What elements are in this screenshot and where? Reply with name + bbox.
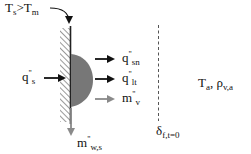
wall-condition-label: Ts>Tm xyxy=(5,1,39,17)
wall-hatch xyxy=(60,28,70,122)
heat-flux-lt-label: q"lt xyxy=(122,71,137,87)
droplet-shape xyxy=(71,54,93,107)
film-boundary-label: δf,t=0 xyxy=(156,124,179,140)
heat-flux-sn-label: q"sn xyxy=(122,51,140,67)
condition-pointer-arrow xyxy=(50,8,69,22)
ambient-conditions-label: Ta, ρv,a xyxy=(198,76,233,92)
heat-flux-in-label: q"s xyxy=(22,70,35,86)
vapor-flux-label: m"v xyxy=(122,91,140,107)
wall-mass-flux-label: m"w,s xyxy=(77,136,102,152)
